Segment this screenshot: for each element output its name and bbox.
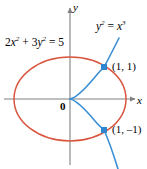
semicubical-lower-branch [70, 99, 118, 169]
ellipse-eq-operator: + 3 [19, 36, 37, 48]
origin-label: 0 [60, 101, 66, 112]
ellipse-equation-label: 2x2 + 3y2 = 5 [5, 37, 64, 49]
point-label-1-1: (1, 1) [112, 61, 136, 72]
point-marker-1-minus1 [101, 127, 107, 133]
point-marker-1-1 [101, 64, 107, 70]
curve-eq-exp-x: 3 [122, 19, 126, 27]
curve-eq-operator: = [105, 20, 117, 32]
x-axis-label: x [137, 95, 142, 106]
curve-equation-label: y2 = x3 [96, 21, 126, 33]
math-figure: 2x2 + 3y2 = 5 y2 = x3 (1, 1) (1, –1) 0 x… [0, 0, 147, 169]
ellipse-eq-rhs: = 5 [46, 36, 64, 48]
y-axis-label: y [73, 2, 78, 13]
point-label-1-minus1: (1, –1) [112, 124, 141, 135]
